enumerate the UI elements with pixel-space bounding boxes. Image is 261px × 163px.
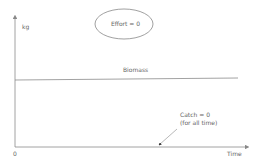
biomass-line [15, 78, 238, 80]
y-axis-label: kg [22, 23, 29, 31]
catch-sublabel: (for all time) [180, 119, 217, 126]
catch-label: Catch = 0 [180, 111, 210, 118]
chart: kg Effort = 0 Biomass Catch = 0 (for all… [0, 0, 261, 163]
x-axis-label: Time [226, 150, 242, 157]
effort-label: Effort = 0 [111, 20, 140, 27]
biomass-label: Biomass [123, 66, 148, 73]
catch-leader-arrow [159, 129, 177, 145]
origin-label: 0 [13, 150, 17, 157]
